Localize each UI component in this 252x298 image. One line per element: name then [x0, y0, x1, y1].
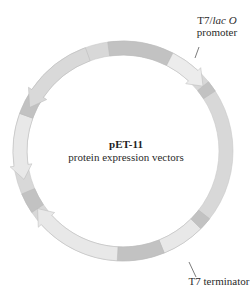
- terminator-label: T7 terminator: [186, 275, 252, 287]
- promoter-label: T7/lac O promoter: [186, 14, 248, 38]
- promoter-arrow: [167, 53, 203, 86]
- arrow-upper-left: [28, 48, 90, 108]
- plasmid-name: pET-11: [0, 138, 252, 150]
- segment-bottom: [117, 240, 164, 261]
- plasmid-subtitle: protein expression vectors: [0, 151, 252, 163]
- terminator-segment: [159, 219, 201, 253]
- segment-top: [108, 41, 173, 65]
- arrow-lower-left: [38, 209, 118, 261]
- promoter-leader-line: [195, 47, 199, 58]
- plasmid-map: T7/lac O promoter T7 terminator pET-11 p…: [0, 0, 252, 298]
